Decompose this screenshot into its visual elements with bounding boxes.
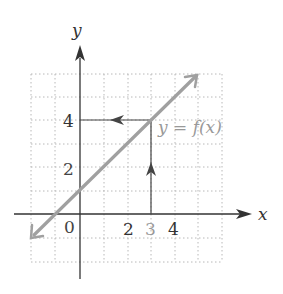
y-tick-4-label: 4 xyxy=(63,111,74,131)
y-axis-label: y xyxy=(71,20,82,40)
y-tick-2-label: 2 xyxy=(63,159,74,179)
x-tick-3-label: 3 xyxy=(145,219,156,239)
x-tick-4-label: 4 xyxy=(168,219,179,239)
x-axis-label: x xyxy=(258,204,268,224)
function-label: y = f(x) xyxy=(157,117,222,137)
function-graph: y x 0 2 3 4 2 4 y = f(x) xyxy=(0,0,283,294)
y-axis xyxy=(75,45,85,279)
x-tick-2-label: 2 xyxy=(123,219,134,239)
graph-canvas: y x 0 2 3 4 2 4 y = f(x) xyxy=(0,0,283,294)
origin-label: 0 xyxy=(64,217,75,237)
